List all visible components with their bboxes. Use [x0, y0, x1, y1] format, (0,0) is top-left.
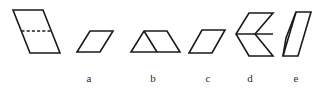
option-c-group[interactable]	[189, 30, 225, 53]
geometry-figure: a b c d e	[0, 0, 319, 90]
option-label-e[interactable]: e	[294, 72, 299, 84]
option-c-outline[interactable]	[189, 30, 225, 53]
option-label-a[interactable]: a	[87, 72, 92, 84]
option-a-group[interactable]	[77, 31, 113, 52]
option-label-d[interactable]: d	[247, 72, 253, 84]
figure-canvas	[0, 0, 319, 90]
option-b-group[interactable]	[131, 31, 180, 52]
option-e-group[interactable]	[283, 12, 311, 56]
option-b-inner-divider	[144, 31, 157, 52]
option-a-outline[interactable]	[77, 31, 113, 52]
option-label-c[interactable]: c	[206, 72, 211, 84]
prompt-parallelogram-outline	[13, 10, 60, 53]
option-d-group[interactable]	[236, 13, 273, 56]
prompt-shape-group	[13, 10, 60, 53]
option-label-b[interactable]: b	[150, 72, 156, 84]
